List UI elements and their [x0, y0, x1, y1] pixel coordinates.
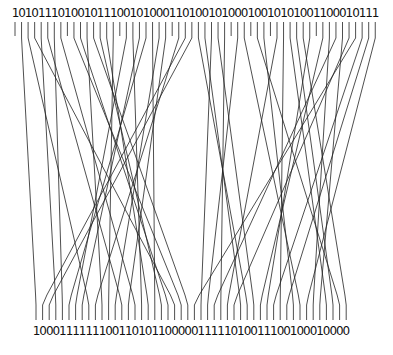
bit-digit: 0 [244, 324, 251, 338]
bit-digit: 0 [283, 324, 290, 338]
bit-digit: 0 [132, 324, 139, 338]
bit-digit: 0 [52, 324, 59, 338]
bit-digit: 0 [105, 324, 112, 338]
bit-digit: 1 [263, 324, 270, 338]
bottom-bit-string: 1000111111100110101100000111110100111001… [33, 324, 350, 338]
wire-lines [0, 0, 393, 355]
top-bit-string: 1010111010010111001010001101001010001001… [12, 6, 379, 20]
bit-digit: 1 [217, 324, 224, 338]
bit-digit: 1 [92, 324, 99, 338]
bit-digit: 0 [336, 324, 343, 338]
bit-digit: 0 [191, 324, 198, 338]
bit-digit: 1 [257, 324, 264, 338]
bit-digit: 1 [316, 324, 323, 338]
bit-digit: 1 [72, 324, 79, 338]
bit-digit: 0 [165, 324, 172, 338]
bit-digit: 0 [323, 324, 330, 338]
bit-digit: 1 [85, 324, 92, 338]
bit-digit: 1 [237, 324, 244, 338]
bit-digit: 0 [296, 324, 303, 338]
bit-digit: 0 [343, 324, 350, 338]
bit-digit: 0 [46, 324, 53, 338]
bit-digit: 0 [310, 324, 317, 338]
bit-digit: 1 [290, 324, 297, 338]
bit-digit: 1 [204, 324, 211, 338]
bit-digit: 0 [39, 324, 46, 338]
bit-digit: 1 [151, 324, 158, 338]
bit-digit: 1 [224, 324, 231, 338]
bit-digit: 1 [372, 6, 379, 20]
bit-digit: 1 [99, 324, 106, 338]
bit-digit: 0 [250, 324, 257, 338]
bit-digit: 1 [158, 324, 165, 338]
bit-digit: 1 [59, 324, 66, 338]
bit-digit: 0 [184, 324, 191, 338]
bit-digit: 1 [66, 324, 73, 338]
bit-wiring-diagram: 1010111010010111001010001101001010001001… [0, 0, 393, 355]
bit-digit: 0 [171, 324, 178, 338]
bit-digit: 1 [125, 324, 132, 338]
bit-digit: 1 [118, 324, 125, 338]
bit-digit: 1 [33, 324, 40, 338]
bit-digit: 0 [303, 324, 310, 338]
bit-digit: 0 [231, 324, 238, 338]
bit-digit: 1 [198, 324, 205, 338]
bit-digit: 0 [112, 324, 119, 338]
bit-digit: 0 [145, 324, 152, 338]
bit-digit: 1 [79, 324, 86, 338]
bit-digit: 0 [277, 324, 284, 338]
bit-digit: 0 [329, 324, 336, 338]
bit-digit: 0 [178, 324, 185, 338]
bit-digit: 1 [270, 324, 277, 338]
bit-digit: 1 [138, 324, 145, 338]
bit-digit: 1 [211, 324, 218, 338]
